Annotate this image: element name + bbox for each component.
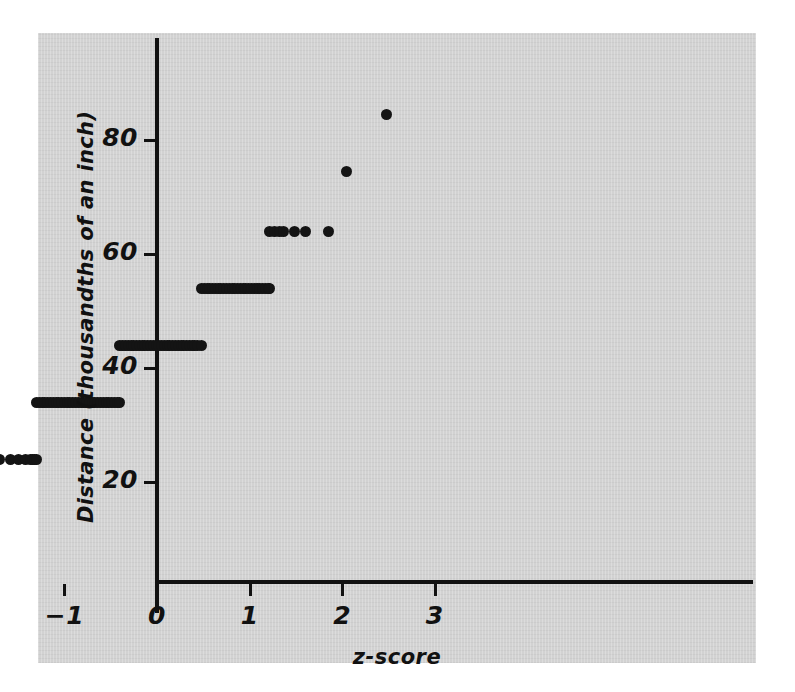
x-axis-tick: [156, 584, 159, 596]
y-axis-tick: [144, 481, 155, 484]
screenshot-root: 20406080 −3−2−10123 z-score Distance (th…: [0, 0, 795, 692]
x-axis-tick: [63, 584, 66, 596]
y-axis-title: Distance (thousandths of an inch): [74, 37, 98, 597]
x-axis-title: z-score: [38, 645, 756, 669]
y-axis-tick: [144, 253, 155, 256]
x-axis-tick-label: 2: [312, 601, 372, 630]
x-axis-tick-label: −2: [0, 601, 2, 630]
y-axis-line: [155, 38, 159, 613]
y-axis-tick: [144, 367, 155, 370]
data-point: [278, 226, 289, 237]
x-axis-tick-label: 1: [220, 601, 280, 630]
x-axis-tick: [341, 584, 344, 596]
x-axis-tick-label: 3: [405, 601, 465, 630]
figure-panel: 20406080 −3−2−10123 z-score Distance (th…: [38, 33, 756, 663]
x-axis-line: [155, 580, 753, 584]
x-axis-tick: [249, 584, 252, 596]
x-axis-tick-label: 0: [127, 601, 187, 630]
plot-area: 20406080 −3−2−10123 z-score Distance (th…: [38, 33, 756, 663]
x-axis-tick: [434, 584, 437, 596]
data-point: [289, 226, 300, 237]
data-point: [31, 454, 42, 465]
data-point: [264, 283, 275, 294]
x-axis-tick-label: −1: [34, 601, 94, 630]
data-point: [323, 226, 334, 237]
y-axis-tick: [144, 139, 155, 142]
data-point: [114, 397, 125, 408]
data-point: [196, 340, 207, 351]
data-point: [381, 109, 392, 120]
data-point: [300, 226, 311, 237]
data-point: [341, 166, 352, 177]
